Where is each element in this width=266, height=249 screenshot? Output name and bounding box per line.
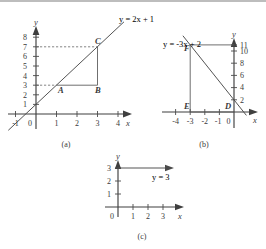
x-tick-label-b-neg2: -2 [201,117,208,126]
y-tick-label-c-2: 2 [107,177,111,186]
caption-a: (a) [62,140,71,149]
y-axis-c [115,160,121,217]
x-tick-label-c-3: 3 [161,212,165,221]
equation-c-text: y = 3 [152,172,170,182]
x-tick-label-a-4: 4 [116,119,120,128]
x-tick-label-a-3: 3 [96,119,100,128]
y-tick-label-c-1: 1 [107,190,111,199]
x-tick-label-a-0: 0 [28,119,32,128]
figure-a: 1 2 3 4 5 6 7 8 -1 0 1 2 3 4 y x A B C (… [0,4,145,152]
y-tick-label-a-2: 2 [23,91,27,100]
equation-label-c: y = 3 [152,166,170,184]
y-tick-label-b-8: 8 [240,59,244,68]
x-tick-label-b-0: 0 [227,117,231,126]
y-tick-label-a-1: 1 [23,100,27,109]
y-axis-label-c: y [115,151,120,161]
y-tick-label-a-7: 7 [23,43,27,52]
x-axis-label-c: x [177,211,182,221]
point-label-a-C: C [95,36,101,46]
x-axis-label-b: x [252,115,257,125]
y-tick-label-b-6: 6 [240,71,244,80]
y-axis-b [231,38,237,128]
y-tick-label-b-2: 2 [240,96,244,105]
y-tick-label-a-6: 6 [23,52,27,61]
x-tick-label-b-neg1: -1 [215,117,222,126]
equation-b-text: y = -3x + 2 [163,39,201,49]
y-tick-label-a-8: 8 [23,33,27,42]
x-tick-label-b-neg4: -4 [172,117,179,126]
x-axis-arrowhead-c [175,204,184,211]
x-axis-c [105,204,184,211]
y-axis-arrowhead [33,26,40,35]
point-label-b-D: D [224,101,231,111]
y-axis-label-a: y [33,17,38,27]
figure-a-svg: 1 2 3 4 5 6 7 8 -1 0 1 2 3 4 y x A B C (… [0,4,145,152]
y-tick-label-a-5: 5 [23,62,27,71]
x-axis-a [8,111,132,118]
page-rule-divider [0,0,266,2]
x-axis-label-a: x [125,118,130,128]
y-tick-label-b-4: 4 [240,83,244,92]
point-label-a-A: A [57,85,64,95]
caption-c: (c) [138,232,147,241]
y-tick-label-c-3: 3 [107,164,111,173]
x-tick-label-a-1: 1 [55,119,59,128]
equation-a-text: y = 2x + 1 [119,14,154,24]
y-tick-label-a-4: 4 [23,72,27,81]
x-tick-label-c-1: 1 [131,212,135,221]
y-axis-arrowhead-b [231,38,237,47]
point-label-a-B: B [94,85,101,95]
x-tick-label-c-2: 2 [146,212,150,221]
point-label-b-E: E [183,101,190,111]
x-tick-label-a-2: 2 [75,119,79,128]
equation-label-b: y = -3x + 2 [163,33,201,51]
x-tick-label-c-0: 0 [110,212,114,221]
equation-label-a: y = 2x + 1 [119,8,154,26]
y-tick-label-a-3: 3 [23,81,27,90]
x-axis-arrowhead [123,111,132,118]
y-tick-label-b-11: 11 [240,41,248,50]
y-axis-label-b: y [231,29,236,39]
x-tick-label-b-neg3: -3 [187,117,194,126]
caption-b: (b) [199,140,209,149]
